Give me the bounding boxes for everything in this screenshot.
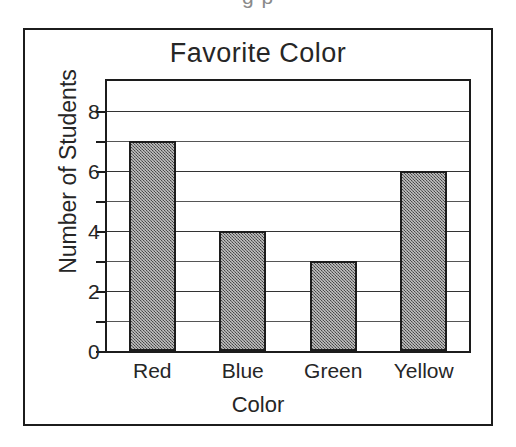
y-tick-label: 6 — [88, 161, 100, 182]
figure-frame: Favorite Color Number of Students 02468R… — [23, 28, 493, 426]
bar-blue — [219, 231, 266, 351]
x-category-label: Blue — [222, 359, 264, 383]
x-axis-title: Color — [25, 392, 491, 418]
y-tick-mark — [96, 261, 105, 263]
x-category-label: Red — [133, 359, 172, 383]
x-category-label: Green — [304, 359, 362, 383]
bar-green — [310, 261, 357, 351]
gridline — [107, 111, 469, 112]
x-category-label: Yellow — [394, 359, 454, 383]
clipped-caption-above-figure: g p — [0, 0, 516, 9]
y-tick-mark — [96, 141, 105, 143]
plot-area: 02468RedBlueGreenYellow — [105, 79, 471, 353]
bar-red — [129, 141, 176, 351]
y-tick-mark — [96, 201, 105, 203]
chart-title: Favorite Color — [25, 38, 491, 69]
y-tick-label: 4 — [88, 221, 100, 242]
bar-yellow — [400, 171, 447, 351]
y-tick-mark — [96, 321, 105, 323]
y-tick-label: 0 — [88, 341, 100, 362]
y-axis-title: Number of Students — [55, 67, 82, 277]
y-tick-label: 8 — [88, 101, 100, 122]
y-tick-label: 2 — [88, 281, 100, 302]
